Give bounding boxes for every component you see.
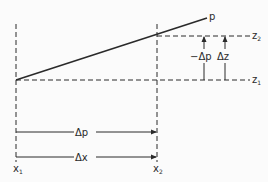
delta-p-horizontal-label: Δp [75, 127, 88, 138]
delta-x-label: Δx [75, 152, 88, 163]
z2-label: z2 [252, 30, 261, 42]
neg-delta-p-label: −Δp [190, 51, 212, 62]
z1-label: z1 [252, 74, 261, 86]
diagram-canvas: p z2 z1 −Δp Δz Δp Δx x1 x2 [0, 0, 268, 182]
x1-label: x1 [13, 163, 23, 175]
p-label: p [209, 11, 215, 22]
delta-z-label: Δz [217, 51, 229, 62]
x2-label: x2 [153, 163, 163, 175]
p-line [16, 18, 207, 80]
